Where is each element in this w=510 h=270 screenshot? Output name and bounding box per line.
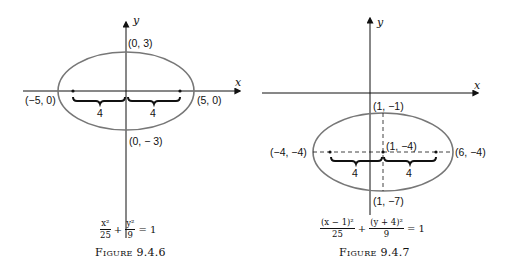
- point-right-label: (5, 0): [197, 94, 222, 106]
- fraction-x: x² 25: [100, 219, 111, 239]
- denominator: 25: [100, 230, 111, 240]
- numerator: y²: [125, 219, 135, 230]
- equation-9-4-7: (x − 1)² 25 + (y + 4)² 9 = 1: [320, 218, 425, 238]
- center-point: [381, 150, 384, 153]
- brace-right-label: 4: [150, 107, 156, 119]
- figures-canvas: x y (0, 3) (0, − 3) (−5, 0) (5, 0) 4 4 x…: [0, 0, 510, 270]
- brace-left-label: 4: [352, 167, 358, 179]
- caption-9-4-6: Figure 9.4.6: [95, 246, 166, 259]
- numerator: (x − 1)²: [320, 218, 355, 229]
- equals-one: = 1: [138, 224, 156, 235]
- figure-9-4-7: x y (1, −1) (1, −4) (1, −7) (−4, −4) (6,…: [262, 16, 486, 215]
- point-left-label: (−5, 0): [25, 94, 56, 106]
- caption-word: Figure: [339, 246, 377, 259]
- numerator: (y + 4)²: [369, 218, 404, 229]
- figure-9-4-6: x y (0, 3) (0, − 3) (−5, 0) (5, 0) 4 4: [23, 14, 242, 238]
- x-axis-label: x: [474, 79, 481, 92]
- plus-sign: +: [114, 224, 122, 235]
- point-left-label: (−4, −4): [270, 146, 307, 158]
- equals-one: = 1: [407, 223, 425, 234]
- denominator: 9: [128, 230, 133, 240]
- x-axis-label: x: [235, 76, 242, 89]
- equation-9-4-6: x² 25 + y² 9 = 1: [100, 219, 156, 239]
- focus-right: [178, 89, 181, 92]
- y-axis-label: y: [376, 16, 384, 29]
- denominator: 25: [332, 229, 343, 239]
- caption-word: Figure: [95, 246, 133, 259]
- plus-sign: +: [358, 223, 366, 234]
- caption-9-4-7: Figure 9.4.7: [339, 246, 410, 259]
- focus-right: [434, 150, 437, 153]
- caption-number: 9.4.6: [136, 246, 166, 259]
- fraction-y: y² 9: [125, 219, 135, 239]
- focus-left: [328, 150, 331, 153]
- y-axis-label: y: [132, 14, 140, 27]
- brace-right: [384, 157, 436, 164]
- fraction-y: (y + 4)² 9: [369, 218, 404, 238]
- point-right-label: (6, −4): [455, 146, 486, 158]
- fraction-x: (x − 1)² 25: [320, 218, 355, 238]
- brace-right: [128, 97, 180, 104]
- focus-left: [71, 89, 74, 92]
- caption-number: 9.4.7: [380, 246, 410, 259]
- point-top-label: (0, 3): [128, 37, 153, 49]
- point-bottom-label: (0, − 3): [129, 135, 163, 147]
- brace-left: [331, 157, 382, 164]
- point-bottom-label: (1, −7): [373, 195, 404, 207]
- brace-left: [73, 97, 125, 104]
- point-center-label: (1, −4): [386, 140, 417, 152]
- brace-left-label: 4: [97, 107, 103, 119]
- numerator: x²: [100, 219, 110, 230]
- brace-right-label: 4: [406, 167, 412, 179]
- denominator: 9: [384, 229, 389, 239]
- point-top-label: (1, −1): [373, 100, 404, 112]
